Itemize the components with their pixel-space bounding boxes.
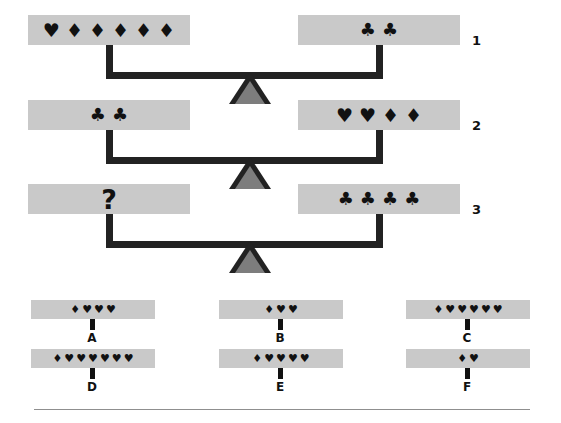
scale-2-fulcrum-fill bbox=[235, 166, 265, 189]
scale-3-right-riser bbox=[376, 214, 383, 241]
club-icon: ♣ bbox=[360, 190, 376, 208]
heart-icon: ♥ bbox=[100, 353, 110, 364]
heart-icon: ♥ bbox=[481, 304, 491, 315]
diamond-icon: ♦ bbox=[135, 21, 152, 40]
option-f-stem bbox=[465, 368, 470, 379]
option-b-label: B bbox=[272, 331, 288, 345]
heart-icon: ♥ bbox=[469, 353, 479, 364]
club-icon: ♣ bbox=[112, 106, 128, 124]
option-e-label: E bbox=[272, 380, 288, 394]
option-a-pan[interactable]: ♦♥♥♥ bbox=[31, 300, 155, 319]
option-f-symbols: ♦♥ bbox=[457, 353, 479, 364]
heart-icon: ♥ bbox=[445, 304, 455, 315]
club-icon: ♣ bbox=[382, 190, 398, 208]
diamond-icon: ♦ bbox=[252, 353, 262, 364]
scale-2-right-pan: ♥♥♦♦ bbox=[298, 100, 460, 130]
scale-2-left-riser bbox=[106, 130, 113, 157]
option-c-stem bbox=[465, 319, 470, 330]
scale-2-label: 2 bbox=[472, 118, 481, 133]
option-c-symbols: ♦♥♥♥♥♥ bbox=[433, 304, 502, 315]
option-d-pan[interactable]: ♦♥♥♥♥♥♥ bbox=[31, 349, 155, 368]
option-d-stem bbox=[90, 368, 95, 379]
heart-icon: ♥ bbox=[124, 353, 134, 364]
diamond-icon: ♦ bbox=[382, 106, 399, 125]
heart-icon: ♥ bbox=[493, 304, 503, 315]
scale-1-right-symbols: ♣♣ bbox=[360, 21, 398, 39]
heart-icon: ♥ bbox=[457, 304, 467, 315]
option-a-symbols: ♦♥♥♥ bbox=[70, 304, 116, 315]
scale-1-left-pan: ♥♦♦♦♦♦ bbox=[28, 15, 190, 45]
option-a-stem bbox=[90, 319, 95, 330]
diamond-icon: ♦ bbox=[405, 106, 422, 125]
diamond-icon: ♦ bbox=[66, 21, 83, 40]
scale-3-left-riser bbox=[106, 214, 113, 241]
heart-icon: ♥ bbox=[288, 353, 298, 364]
heart-icon: ♥ bbox=[288, 304, 298, 315]
heart-icon: ♥ bbox=[94, 304, 104, 315]
scale-2-left-pan: ♣♣ bbox=[28, 100, 190, 130]
option-a-label: A bbox=[84, 331, 100, 345]
diamond-icon: ♦ bbox=[264, 304, 274, 315]
diamond-icon: ♦ bbox=[52, 353, 62, 364]
bottom-divider bbox=[34, 409, 530, 410]
heart-icon: ♥ bbox=[76, 353, 86, 364]
option-b-symbols: ♦♥♥ bbox=[264, 304, 298, 315]
club-icon: ♣ bbox=[404, 190, 420, 208]
scale-3-label: 3 bbox=[472, 202, 481, 217]
scale-1-left-riser bbox=[106, 45, 113, 72]
scale-2-right-symbols: ♥♥♦♦ bbox=[336, 106, 422, 125]
scale-1-right-riser bbox=[376, 45, 383, 72]
scale-1-label: 1 bbox=[472, 33, 481, 48]
diamond-icon: ♦ bbox=[158, 21, 175, 40]
option-b-stem bbox=[278, 319, 283, 330]
heart-icon: ♥ bbox=[469, 304, 479, 315]
heart-icon: ♥ bbox=[336, 106, 353, 125]
diamond-icon: ♦ bbox=[70, 304, 80, 315]
club-icon: ♣ bbox=[360, 21, 376, 39]
scale-2-right-riser bbox=[376, 130, 383, 157]
scale-3-fulcrum-fill bbox=[235, 250, 265, 273]
scale-1-left-symbols: ♥♦♦♦♦♦ bbox=[43, 21, 175, 40]
heart-icon: ♥ bbox=[82, 304, 92, 315]
scale-3-right-symbols: ♣♣♣♣ bbox=[338, 190, 421, 208]
diamond-icon: ♦ bbox=[433, 304, 443, 315]
club-icon: ♣ bbox=[90, 106, 106, 124]
heart-icon: ♥ bbox=[359, 106, 376, 125]
unknown-question-mark: ? bbox=[101, 186, 117, 213]
club-icon: ♣ bbox=[382, 21, 398, 39]
heart-icon: ♥ bbox=[64, 353, 74, 364]
scale-1-fulcrum-fill bbox=[235, 81, 265, 104]
heart-icon: ♥ bbox=[264, 353, 274, 364]
option-e-stem bbox=[278, 368, 283, 379]
scale-3-right-pan: ♣♣♣♣ bbox=[298, 184, 460, 214]
option-d-label: D bbox=[84, 380, 100, 394]
option-f-pan[interactable]: ♦♥ bbox=[406, 349, 530, 368]
option-e-symbols: ♦♥♥♥♥ bbox=[252, 353, 309, 364]
option-f-label: F bbox=[459, 380, 475, 394]
diamond-icon: ♦ bbox=[112, 21, 129, 40]
option-c-label: C bbox=[459, 331, 475, 345]
scale-2-left-symbols: ♣♣ bbox=[90, 106, 128, 124]
balance-puzzle: ♥♦♦♦♦♦ ♣♣ 1 ♣♣ ♥♥♦♦ 2 ? ♣♣♣♣ bbox=[0, 0, 561, 423]
heart-icon: ♥ bbox=[43, 21, 60, 40]
club-icon: ♣ bbox=[338, 190, 354, 208]
diamond-icon: ♦ bbox=[89, 21, 106, 40]
heart-icon: ♥ bbox=[112, 353, 122, 364]
option-c-pan[interactable]: ♦♥♥♥♥♥ bbox=[406, 300, 530, 319]
heart-icon: ♥ bbox=[300, 353, 310, 364]
diamond-icon: ♦ bbox=[457, 353, 467, 364]
heart-icon: ♥ bbox=[88, 353, 98, 364]
scale-1-right-pan: ♣♣ bbox=[298, 15, 460, 45]
heart-icon: ♥ bbox=[276, 304, 286, 315]
scale-3-left-pan: ? bbox=[28, 184, 190, 214]
option-d-symbols: ♦♥♥♥♥♥♥ bbox=[52, 353, 133, 364]
option-b-pan[interactable]: ♦♥♥ bbox=[219, 300, 343, 319]
option-e-pan[interactable]: ♦♥♥♥♥ bbox=[219, 349, 343, 368]
heart-icon: ♥ bbox=[106, 304, 116, 315]
heart-icon: ♥ bbox=[276, 353, 286, 364]
